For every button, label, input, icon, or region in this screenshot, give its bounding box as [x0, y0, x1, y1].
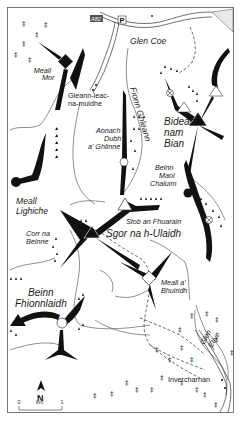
label-sgor-na-h-ulaidh: Sgor na h-Ulaidh	[106, 228, 181, 239]
svg-text:‡: ‡	[180, 344, 184, 352]
svg-text:‡: ‡	[190, 312, 194, 320]
svg-text:‡: ‡	[135, 386, 139, 394]
svg-text:‡: ‡	[215, 316, 219, 324]
label-meall-mor-2: Mor	[42, 73, 55, 82]
label-stob-an-fhuarain: Stob an Fhuarain	[126, 217, 181, 226]
label-bidean-1: Bidean	[164, 116, 196, 127]
label-gleann-2: na-muidhe	[68, 99, 102, 108]
svg-text:‡: ‡	[125, 379, 129, 387]
label-invercharnan: Invercharnan	[168, 375, 210, 384]
svg-text:‡: ‡	[35, 31, 39, 39]
svg-text:‡: ‡	[178, 326, 182, 334]
parking-icon: P	[120, 16, 125, 25]
label-aonach-3: a' Ghlinne	[88, 142, 120, 151]
label-meall-lighiche-2: Lighiche	[16, 206, 48, 216]
svg-text:‡: ‡	[110, 390, 114, 398]
label-glen-coe: Glen Coe	[130, 36, 167, 46]
label-bidean-2: nam	[164, 127, 183, 138]
svg-text:‡: ‡	[203, 391, 207, 399]
svg-text:‡: ‡	[155, 346, 159, 354]
svg-text:‡: ‡	[160, 374, 164, 382]
svg-text:‡: ‡	[44, 21, 48, 29]
svg-text:‡: ‡	[93, 392, 97, 400]
label-beinn-fhionnlaidh-1: Beinn	[28, 287, 54, 298]
label-corr-na-beinne-2: Beinne	[26, 237, 48, 246]
svg-text:‡: ‡	[28, 56, 32, 64]
svg-text:‡: ‡	[14, 51, 18, 59]
svg-text:‡: ‡	[22, 40, 26, 48]
svg-text:‡: ‡	[195, 386, 199, 394]
svg-text:‡: ‡	[168, 356, 172, 364]
label-beinn-fhionnlaidh-2: Fhionnlaidh	[15, 298, 67, 309]
svg-text:km: km	[36, 399, 44, 405]
label-meall-lighiche-1: Meall	[16, 196, 38, 206]
svg-text:‡: ‡	[22, 20, 26, 28]
svg-text:‡: ‡	[205, 310, 209, 318]
svg-text:‡: ‡	[230, 349, 234, 357]
svg-text:‡: ‡	[150, 386, 154, 394]
label-beinn-maol-3: Chaluim	[150, 179, 176, 188]
road-label-a82: A82	[90, 16, 101, 22]
svg-text:0: 0	[18, 399, 21, 405]
svg-text:1: 1	[61, 399, 64, 405]
map: A82 P	[0, 0, 242, 421]
label-meall-a-bhuiridh-2: Bhuiridh	[161, 286, 187, 295]
label-bidean-3: Bian	[164, 138, 184, 149]
svg-text:‡: ‡	[190, 356, 194, 364]
svg-text:‡: ‡	[214, 401, 218, 409]
